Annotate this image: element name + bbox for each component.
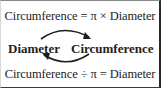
conversion-diagram: Circumference = π × Diameter Diameter Ci… (0, 0, 161, 88)
divide-formula: Circumference ÷ π = Diameter (1, 67, 159, 82)
circumference-label: Circumference (71, 41, 154, 57)
arrow-diameter-to-circumference-icon (41, 30, 91, 39)
diameter-label: Diameter (8, 41, 60, 57)
